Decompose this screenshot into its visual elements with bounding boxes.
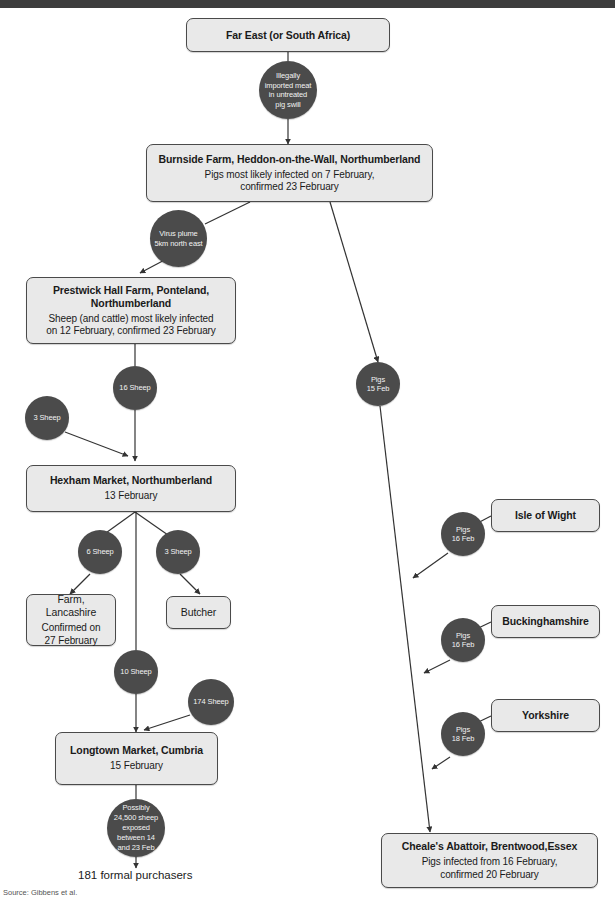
label-formal-purchasers: 181 formal purchasers bbox=[78, 869, 192, 881]
node-longtown-market[interactable]: Longtown Market, Cumbria 15 February bbox=[55, 732, 218, 785]
circle-sheep-6[interactable]: 6 Sheep bbox=[78, 530, 122, 574]
circle-sheep-16[interactable]: 16 Sheep bbox=[113, 366, 157, 410]
node-hexham-market[interactable]: Hexham Market, Northumberland 13 Februar… bbox=[26, 465, 236, 512]
node-prestwick-hall-farm-title: Prestwick Hall Farm, Ponteland, Northumb… bbox=[53, 284, 209, 310]
node-cheales-abattoir-sub: Pigs infected from 16 February, confirme… bbox=[422, 856, 558, 881]
circle-pigs-16feb-isle-of-wight[interactable]: Pigs 16 Feb bbox=[441, 512, 485, 556]
edge-6sheep-farm bbox=[70, 574, 90, 594]
edge-3sheep-hexham bbox=[65, 432, 128, 456]
node-hexham-market-sub: 13 February bbox=[105, 490, 158, 503]
node-cheales-abattoir[interactable]: Cheale's Abattoir, Brentwood,Essex Pigs … bbox=[381, 833, 598, 888]
node-hexham-market-title: Hexham Market, Northumberland bbox=[50, 474, 212, 487]
circle-virus-plume[interactable]: Virus plume 5km north east bbox=[150, 210, 207, 267]
node-buckinghamshire-title: Buckinghamshire bbox=[502, 615, 589, 628]
circle-pigs-15feb[interactable]: Pigs 15 Feb bbox=[356, 362, 400, 406]
node-far-east[interactable]: Far East (or South Africa) bbox=[186, 18, 390, 52]
node-longtown-market-sub: 15 February bbox=[110, 760, 163, 773]
circle-sheep-3-right[interactable]: 3 Sheep bbox=[156, 530, 200, 574]
node-buckinghamshire[interactable]: Buckinghamshire bbox=[491, 605, 600, 638]
node-farm-lancashire-title: Farm, Lancashire bbox=[46, 593, 96, 619]
node-cheales-abattoir-title: Cheale's Abattoir, Brentwood,Essex bbox=[402, 840, 578, 853]
edge-hexham-3sheep bbox=[135, 512, 168, 535]
node-isle-of-wight-title: Isle of Wight bbox=[515, 509, 576, 522]
node-prestwick-hall-farm[interactable]: Prestwick Hall Farm, Ponteland, Northumb… bbox=[26, 277, 236, 344]
node-isle-of-wight[interactable]: Isle of Wight bbox=[491, 499, 600, 532]
node-burnside-farm-sub: Pigs most likely infected on 7 February,… bbox=[205, 169, 375, 194]
circle-illegal-meat[interactable]: Illegally imported meat in untreated pig… bbox=[259, 61, 317, 119]
edge-pigs18-trunk bbox=[432, 757, 450, 769]
edge-3sheep-butcher bbox=[180, 574, 200, 594]
edge-pigs16-trunk bbox=[413, 553, 448, 578]
node-burnside-farm[interactable]: Burnside Farm, Heddon-on-the-Wall, North… bbox=[146, 144, 433, 202]
circle-pigs-18feb-yorkshire[interactable]: Pigs 18 Feb bbox=[441, 712, 485, 756]
node-butcher[interactable]: Butcher bbox=[166, 596, 231, 629]
circle-sheep-exposed[interactable]: Possibly 24,500 sheep exposed between 14… bbox=[107, 799, 165, 857]
circle-sheep-3-left[interactable]: 3 Sheep bbox=[25, 396, 69, 440]
edge-burnside-plume bbox=[205, 202, 250, 224]
node-burnside-farm-title: Burnside Farm, Heddon-on-the-Wall, North… bbox=[159, 153, 421, 166]
node-yorkshire[interactable]: Yorkshire bbox=[491, 699, 600, 732]
circle-pigs-16feb-buckinghamshire[interactable]: Pigs 16 Feb bbox=[441, 618, 485, 662]
circle-sheep-174[interactable]: 174 Sheep bbox=[188, 679, 234, 725]
node-prestwick-hall-farm-sub: Sheep (and cattle) most likely infected … bbox=[46, 313, 216, 338]
source-credit: Source: Gibbens et al. bbox=[3, 888, 77, 897]
node-butcher-title: Butcher bbox=[181, 606, 217, 619]
edge-burnside-pigs15 bbox=[330, 202, 378, 362]
node-farm-lancashire[interactable]: Farm, Lancashire Confirmed on 27 Februar… bbox=[26, 594, 116, 646]
edge-pigs15-cheales bbox=[380, 406, 430, 832]
node-farm-lancashire-sub: Confirmed on 27 February bbox=[42, 622, 101, 647]
node-yorkshire-title: Yorkshire bbox=[522, 709, 569, 722]
edge-174sheep-longtown bbox=[144, 715, 190, 730]
node-longtown-market-title: Longtown Market, Cumbria bbox=[70, 744, 203, 757]
edge-pigs16b-trunk bbox=[424, 660, 450, 673]
diagram-canvas: Far East (or South Africa) Burnside Farm… bbox=[0, 0, 615, 904]
node-far-east-title: Far East (or South Africa) bbox=[226, 29, 350, 42]
circle-sheep-10[interactable]: 10 Sheep bbox=[114, 650, 158, 694]
